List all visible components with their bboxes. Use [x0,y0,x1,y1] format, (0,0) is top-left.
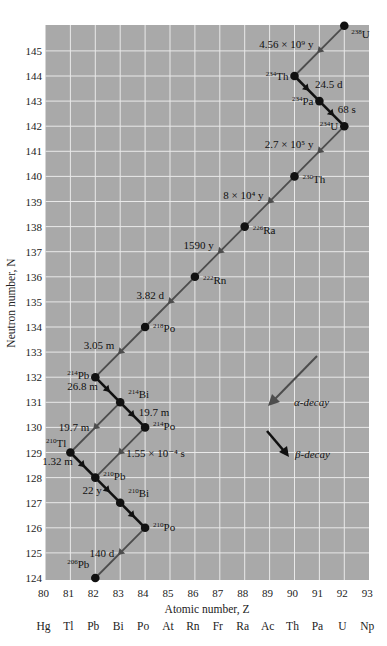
y-tick-label: 143 [26,95,43,107]
x-tick-label: 86 [187,587,199,599]
y-tick-label: 124 [26,572,43,584]
y-tick-label: 127 [26,497,43,509]
element-symbol: U [338,620,347,632]
nuclide-dot [91,574,100,583]
nuclide-dot [141,423,150,432]
y-tick-label: 135 [26,296,43,308]
half-life-label: 68 s [338,103,356,115]
nuclide-dot [290,72,299,81]
x-tick-label: 84 [138,587,150,599]
nuclide-dot [340,22,349,31]
plot-background [46,25,370,580]
x-tick-label: 87 [212,587,224,599]
half-life-label: 140 d [89,547,114,559]
y-tick-label: 141 [26,145,43,157]
nuclide-dot [290,172,299,181]
element-symbol: Hg [36,620,50,633]
element-symbol: Fr [213,620,223,632]
x-tick-label: 89 [262,587,274,599]
nuclide-dot [240,222,249,231]
y-tick-label: 136 [26,271,43,283]
legend-alpha-label: α-decay [294,396,329,408]
element-symbols: HgTlPbBiPoAtRnFrRaAcThPaUNp [36,620,374,633]
y-tick-label: 125 [26,547,43,559]
x-tick-label: 88 [237,587,249,599]
element-symbol: Ac [261,620,274,632]
nuclide-dot [116,398,125,407]
x-tick-label: 80 [38,587,50,599]
half-life-label: 2.7 × 10⁵ y [265,138,314,150]
y-tick-label: 144 [26,70,43,82]
nuclide-dot [191,273,200,282]
y-tick-label: 145 [26,45,43,57]
y-tick-label: 134 [26,321,43,333]
element-symbol: Pb [87,620,99,632]
nuclide-dot [116,498,125,507]
half-life-label: 19.7 m [139,406,170,418]
nuclide-dot [141,323,150,332]
y-tick-label: 126 [26,522,43,534]
y-tick-label: 142 [26,120,43,132]
x-tick-label: 82 [88,587,99,599]
half-life-label: 26.8 m [67,380,98,392]
x-tick-label: 85 [163,587,175,599]
element-symbol: Th [286,620,299,632]
x-tick-label: 91 [312,587,323,599]
nuclide-dot [340,122,349,131]
decay-series-diagram: 1241251261271281291301311321331341351361… [0,0,387,646]
y-tick-label: 131 [26,396,43,408]
element-symbol: At [162,620,174,632]
x-tick-label: 81 [63,587,74,599]
y-tick-label: 138 [26,221,43,233]
element-symbol: Ra [236,620,249,632]
element-symbol: Po [137,620,149,632]
x-tick-label: 93 [362,587,374,599]
y-tick-label: 137 [26,246,43,258]
y-tick-label: 129 [26,447,43,459]
half-life-label: 3.05 m [84,339,115,351]
y-tick-label: 130 [26,421,43,433]
y-axis-title: Neutron number, N [5,258,18,348]
nuclide-dot [141,524,150,533]
half-life-label: 24.5 d [315,78,343,90]
half-life-label: 1590 y [184,239,215,251]
nuclide-dot [91,473,100,482]
element-symbol: Pa [312,620,324,632]
half-life-label: 1.32 m [42,455,73,467]
half-life-label: 1.55 × 10⁻⁴ s [126,447,185,459]
y-tick-label: 128 [26,472,43,484]
half-life-label: 4.56 × 10⁹ y [259,38,314,50]
half-life-label: 19.7 m [59,421,90,433]
y-tick-label: 139 [26,196,43,208]
y-tick-label: 133 [26,346,43,358]
x-axis-title: Atomic number, Z [165,603,250,616]
x-tick-label: 92 [337,587,348,599]
element-symbol: Tl [63,620,73,632]
x-tick-label: 90 [287,587,299,599]
y-tick-label: 140 [26,170,43,182]
half-life-label: 22 y [83,484,103,496]
y-tick-labels: 1241251261271281291301311321331341351361… [26,45,43,584]
half-life-label: 3.82 d [137,289,165,301]
half-life-label: 8 × 10⁴ y [223,189,264,201]
element-symbol: Np [360,620,374,633]
x-tick-label: 83 [113,587,125,599]
element-symbol: Bi [113,620,124,632]
nuclide-dot [315,97,324,106]
element-symbol: Rn [186,620,200,632]
legend-beta-label: β-decay [294,448,330,460]
y-tick-label: 132 [26,371,43,383]
x-tick-labels: 8081828384858687888990919293 [38,587,373,599]
